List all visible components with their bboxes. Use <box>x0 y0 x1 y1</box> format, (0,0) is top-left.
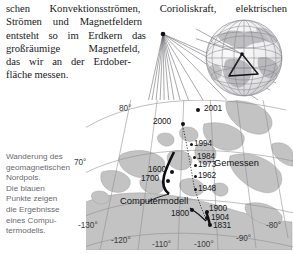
prose-word: schen <box>6 2 30 15</box>
prose-word: entsteht <box>6 29 39 42</box>
prose-word: Magnetfeldern <box>80 15 142 28</box>
prose-word: der <box>71 55 85 68</box>
caption-line: termodells. <box>6 226 82 237</box>
series-label-model: Computermodell <box>120 196 188 206</box>
caption-line: eines Compu- <box>6 216 82 227</box>
prose-line-2: Strömen und Magnetfeldern <box>6 15 142 28</box>
lon-tick-80: -80° <box>266 221 281 230</box>
cone-apex <box>161 32 166 37</box>
prose-word: wir <box>29 55 43 68</box>
caption-line: geomagnetischen <box>6 163 82 174</box>
data-label-1948: 1948 <box>198 183 216 193</box>
prose-word: und <box>53 15 69 28</box>
figure-caption: Wanderung des geomagnetischen Nordpols. … <box>6 152 82 237</box>
series-label-measured: Gemessen <box>214 158 259 168</box>
earth-globe-inset <box>196 14 292 106</box>
map-svg <box>86 100 293 250</box>
caption-line: Die blauen <box>6 184 82 195</box>
prose-word: großräumige <box>6 42 60 55</box>
lon-tick-100: -100° <box>194 240 214 249</box>
prose-word: im <box>67 29 78 42</box>
prose-word: an <box>52 55 62 68</box>
caption-line: Nordpols. <box>6 173 82 184</box>
prose-word: Strömen <box>6 15 42 28</box>
data-label-1962: 1962 <box>198 170 216 180</box>
prose-word: Konvektionsströmen, <box>49 2 140 15</box>
data-label-2001: 2001 <box>204 103 222 113</box>
prose-word: Erdkern <box>88 29 122 42</box>
prose-word: das <box>6 55 20 68</box>
lon-tick-90: -90° <box>236 234 251 243</box>
data-label-1700: 1700 <box>141 173 159 183</box>
globe-pole-point <box>240 52 244 56</box>
lon-tick-110: -110° <box>152 240 171 249</box>
globe-svg <box>196 14 292 106</box>
lat-tick-70: 70° <box>74 158 86 167</box>
caption-line: Punkte zeigen <box>6 194 82 205</box>
figure-page: schen Konvektionsströmen, Corioliskraft,… <box>0 0 293 254</box>
polar-map: 2001 2000 1994 1984 1973 1962 1948 1900 … <box>86 100 293 250</box>
data-label-1800: 1800 <box>171 208 189 218</box>
prose-line-3: entsteht so im Erdkern das <box>6 29 146 42</box>
prose-word: so <box>49 29 58 42</box>
prose-line-5: das wir an der Erdober- <box>6 55 131 68</box>
caption-line: die Ergebnisse <box>6 205 82 216</box>
caption-line: Wanderung des <box>6 152 82 163</box>
lon-tick-130: -130° <box>78 221 98 230</box>
lat-tick-80: 80° <box>119 104 131 113</box>
data-label-2000: 2000 <box>153 116 171 126</box>
prose-word: Erdober- <box>94 55 131 68</box>
data-label-1831: 1831 <box>213 220 231 230</box>
prose-line-4: großräumige Magnetfeld, <box>6 42 140 55</box>
data-label-1994: 1994 <box>194 138 212 148</box>
lon-tick-120: -120° <box>111 236 131 245</box>
